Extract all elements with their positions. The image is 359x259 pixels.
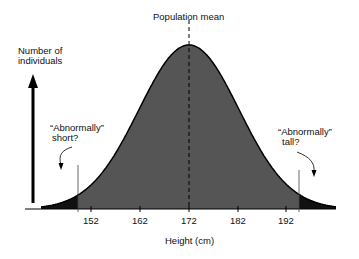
short-arrow-icon <box>60 147 72 165</box>
tall-annotation-line2: tall? <box>282 137 299 147</box>
y-axis-label-line2: individuals <box>18 56 62 66</box>
chart-title: Population mean <box>153 12 224 22</box>
x-axis-label: Height (cm) <box>165 236 214 246</box>
tick-label: 162 <box>132 216 148 226</box>
y-axis-arrow-icon <box>28 74 38 203</box>
tick-label: 182 <box>230 216 246 226</box>
tick-label: 152 <box>83 216 99 226</box>
short-annotation-line2: short? <box>52 133 78 143</box>
tick-label: 172 <box>181 216 197 226</box>
tall-arrow-icon <box>297 152 314 172</box>
tick-label: 192 <box>278 216 294 226</box>
